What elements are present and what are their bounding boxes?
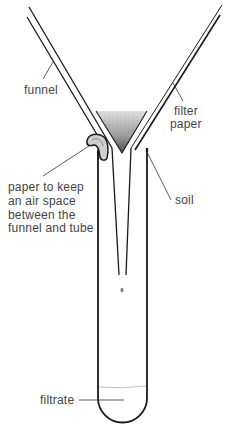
test-tube (98, 150, 147, 423)
filtrate (99, 386, 146, 388)
funnel-left-wall (27, 7, 112, 153)
soil-leader (147, 152, 171, 200)
label-filter-paper-1: filter (174, 104, 198, 118)
label-air-space-3: between the (8, 208, 76, 222)
label-air-space-1: paper to keep (8, 180, 84, 194)
label-soil: soil (175, 193, 194, 207)
label-air-space-2: an air space (8, 194, 76, 208)
label-filter-paper-2: paper (170, 117, 202, 131)
air-space-leader (43, 146, 89, 176)
label-funnel: funnel (24, 83, 58, 97)
label-air-space-4: funnel and tube (8, 221, 94, 235)
funnel-stem (112, 148, 131, 275)
funnel-leader (43, 62, 53, 79)
paper-wedge (87, 134, 108, 160)
label-filtrate: filtrate (40, 393, 74, 407)
water-drop (120, 288, 123, 292)
filter-paper-leader (173, 83, 183, 101)
